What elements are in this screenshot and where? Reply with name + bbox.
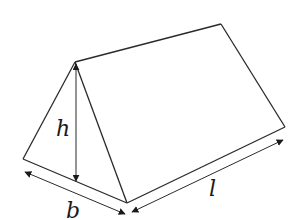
length-label: l [209,176,216,201]
back-right-slope-edge [221,24,285,127]
front-base-edge [23,159,127,203]
base-label: b [66,198,80,220]
bottom-length-edge [127,127,285,203]
length-arrow [132,140,283,212]
prism-diagram: h b l [0,0,305,220]
front-right-edge [75,62,127,203]
height-label: h [56,116,70,141]
ridge-edge [75,24,221,62]
front-left-edge [23,62,75,159]
